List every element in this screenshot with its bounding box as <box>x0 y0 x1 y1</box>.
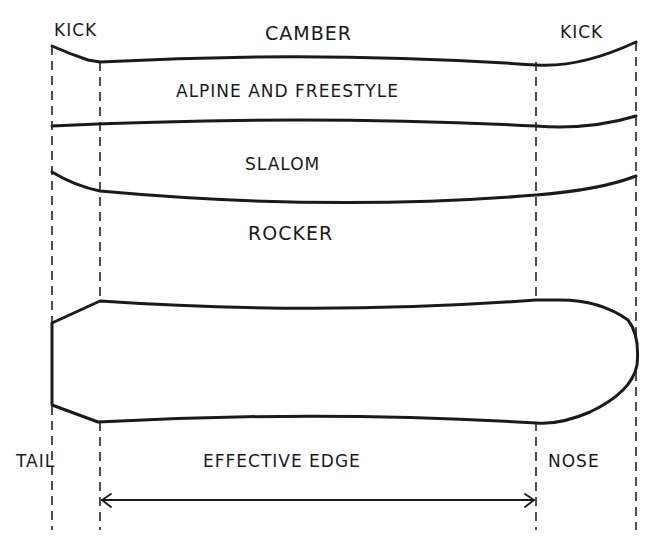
effective-edge-label: EFFECTIVE EDGE <box>203 451 361 471</box>
alpine-freestyle-profile-line <box>52 116 636 127</box>
alpine-freestyle-label: ALPINE AND FREESTYLE <box>176 81 399 101</box>
kick-right-label: KICK <box>560 22 603 42</box>
snowboard-diagram: KICK CAMBER KICK ALPINE AND FREESTYLE SL… <box>0 0 656 547</box>
rocker-profile-line <box>52 172 636 203</box>
board-outline <box>52 300 638 423</box>
nose-label: NOSE <box>548 451 600 471</box>
camber-label: CAMBER <box>265 22 352 44</box>
tail-label: TAIL <box>15 451 55 471</box>
rocker-label: ROCKER <box>248 222 333 244</box>
kick-left-label: KICK <box>54 20 97 40</box>
slalom-label: SLALOM <box>245 154 320 174</box>
camber-profile-line <box>52 42 636 65</box>
